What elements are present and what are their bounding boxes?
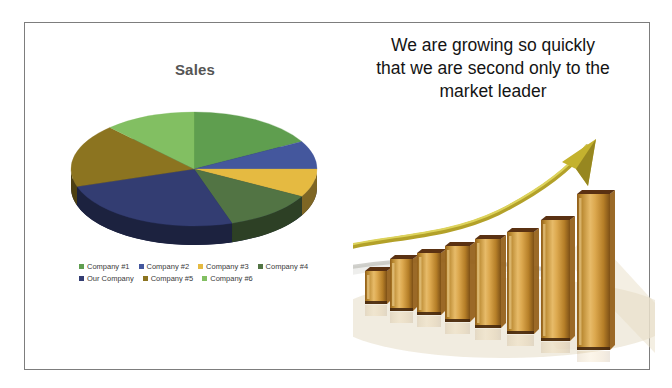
bar-base [417,312,441,315]
bar-reflection [390,312,413,323]
growth-bars-illustration [353,113,655,363]
bar-reflection [445,323,470,334]
bar-highlight [419,257,422,310]
bar-front-face [577,194,610,350]
growth-bar [507,228,539,346]
legend-label: Company #5 [151,274,194,283]
bar-highlight [447,250,450,317]
legend-row: Company #1Company #2Company #3Company #4 [79,262,308,271]
legend-item: Company #5 [143,274,194,283]
legend-swatch-icon [79,276,84,281]
legend-swatch-icon [139,264,144,269]
bar-cap [577,190,615,194]
legend-item: Company #6 [202,274,253,283]
legend-swatch-icon [143,276,148,281]
bar-base [577,347,610,350]
legend-item: Company #4 [258,262,309,271]
legend-row: Our CompanyCompany #5Company #6 [79,274,308,283]
bar-cap [507,228,539,232]
caption-line-3: market leader [365,80,621,103]
legend-swatch-icon [79,264,84,269]
bar-cap [475,235,506,239]
bar-reflection [475,329,501,340]
bar-reflection [507,335,534,346]
legend-item: Our Company [79,274,134,283]
legend-swatch-icon [202,276,207,281]
legend-label: Company #2 [147,262,190,271]
bar-base [541,338,570,341]
growth-bar [541,216,575,353]
bar-side-face [534,228,539,334]
legend-label: Company #1 [87,262,130,271]
legend-item: Company #1 [79,262,130,271]
bar-highlight [579,198,582,345]
growth-bar [445,242,475,334]
bar-base [365,301,387,304]
pie-chart-title: Sales [85,61,305,78]
bar-reflection [417,316,441,327]
bar-base [445,319,470,322]
sales-pie-chart [61,99,331,259]
bar-side-face [570,216,575,341]
bar-cap [417,249,446,253]
bar-highlight [543,224,546,336]
caption-line-2: that we are second only to the [365,57,621,80]
growth-bar [475,235,506,340]
legend-label: Company #6 [210,274,253,283]
pie-legend: Company #1Company #2Company #3Company #4… [79,262,308,286]
caption-line-1: We are growing so quickly [365,34,621,57]
legend-label: Company #4 [266,262,309,271]
bar-highlight [392,263,395,306]
bar-reflection [577,351,610,362]
growth-bar [577,190,615,362]
bar-side-face [610,190,615,350]
bar-base [390,308,413,311]
legend-swatch-icon [258,264,263,269]
legend-label: Company #3 [206,262,249,271]
bar-highlight [367,275,370,299]
legend-label: Our Company [87,274,134,283]
bar-cap [445,242,475,246]
growth-caption: We are growing so quickly that we are se… [365,34,621,103]
bar-reflection [541,342,570,353]
bar-base [507,331,534,334]
bar-base [475,325,501,328]
bar-side-face [501,235,506,328]
bar-reflection [365,305,387,316]
bar-side-face [470,242,475,322]
bar-highlight [477,243,480,323]
legend-item: Company #2 [139,262,190,271]
bar-highlight [509,236,512,329]
slide-frame: Sales Company #1Company #2Company #3Comp… [24,22,650,370]
bar-cap [541,216,575,220]
legend-item: Company #3 [198,262,249,271]
legend-swatch-icon [198,264,203,269]
